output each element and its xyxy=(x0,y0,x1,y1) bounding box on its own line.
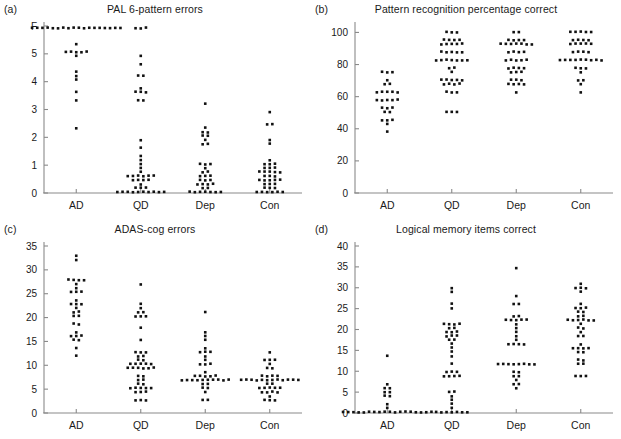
svg-text:20: 20 xyxy=(26,312,38,323)
panel-c-plot: 05101520253035ADQDDepCon xyxy=(0,220,310,439)
svg-text:Dep: Dep xyxy=(196,199,215,211)
svg-text:25: 25 xyxy=(26,288,38,299)
svg-text:AD: AD xyxy=(69,419,84,431)
svg-text:AD: AD xyxy=(69,199,84,211)
panel-d: (d) Logical memory items correct 0510152… xyxy=(311,220,621,439)
panel-b-plot: 020406080100ADQDDepCon xyxy=(311,0,621,219)
svg-text:3: 3 xyxy=(31,104,37,115)
svg-text:0: 0 xyxy=(31,408,37,419)
svg-text:15: 15 xyxy=(337,345,349,356)
svg-text:F: F xyxy=(31,21,37,32)
svg-text:4: 4 xyxy=(31,76,37,87)
svg-text:0: 0 xyxy=(342,188,348,199)
svg-text:Dep: Dep xyxy=(507,419,526,431)
svg-text:AD: AD xyxy=(380,419,395,431)
panel-d-plot: 0510152025303540ADQDDepCon xyxy=(311,220,621,439)
svg-text:30: 30 xyxy=(26,264,38,275)
svg-text:30: 30 xyxy=(337,282,349,293)
svg-text:QD: QD xyxy=(444,199,460,211)
svg-text:Con: Con xyxy=(260,419,279,431)
svg-text:AD: AD xyxy=(380,199,395,211)
panel-c: (c) ADAS-cog errors 05101520253035ADQDDe… xyxy=(0,220,310,439)
svg-text:5: 5 xyxy=(31,48,37,59)
svg-text:QD: QD xyxy=(133,419,149,431)
svg-text:10: 10 xyxy=(26,360,38,371)
svg-text:15: 15 xyxy=(26,336,38,347)
panel-b: (b) Pattern recognition percentage corre… xyxy=(311,0,621,219)
figure-four-panel-dotplots: (a) PAL 6-pattern errors 012345FADQDDepC… xyxy=(0,0,621,439)
svg-text:Con: Con xyxy=(571,419,590,431)
svg-text:Con: Con xyxy=(260,199,279,211)
svg-text:QD: QD xyxy=(444,419,460,431)
svg-text:35: 35 xyxy=(337,261,349,272)
svg-text:80: 80 xyxy=(337,59,349,70)
svg-text:2: 2 xyxy=(31,132,37,143)
svg-text:Dep: Dep xyxy=(196,419,215,431)
svg-text:35: 35 xyxy=(26,241,38,252)
svg-text:5: 5 xyxy=(342,387,348,398)
svg-text:QD: QD xyxy=(133,199,149,211)
panel-a-plot: 012345FADQDDepCon xyxy=(0,0,310,219)
svg-text:5: 5 xyxy=(31,384,37,395)
svg-text:20: 20 xyxy=(337,155,349,166)
svg-text:Con: Con xyxy=(571,199,590,211)
svg-text:100: 100 xyxy=(331,27,348,38)
panel-a: (a) PAL 6-pattern errors 012345FADQDDepC… xyxy=(0,0,310,219)
svg-text:60: 60 xyxy=(337,91,349,102)
svg-text:1: 1 xyxy=(31,160,37,171)
svg-text:0: 0 xyxy=(31,188,37,199)
svg-text:Dep: Dep xyxy=(507,199,526,211)
svg-text:40: 40 xyxy=(337,123,349,134)
svg-text:25: 25 xyxy=(337,303,349,314)
svg-text:10: 10 xyxy=(337,366,349,377)
svg-text:40: 40 xyxy=(337,241,349,252)
svg-text:20: 20 xyxy=(337,324,349,335)
